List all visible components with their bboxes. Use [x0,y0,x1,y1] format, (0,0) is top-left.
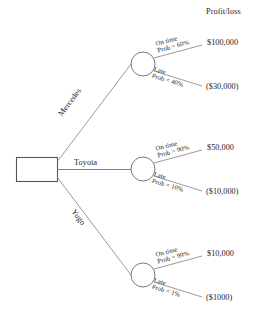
branch-line-mercedes [57,64,131,162]
profit-loss-header: Profit/loss [206,8,241,17]
alternative-label-toyota: Toyota [74,159,97,167]
chance-node-mercedes[interactable] [131,52,155,76]
branch-line-yugo [57,177,131,275]
payoff-mercedes-late: ($30,000) [206,83,239,92]
payoff-yugo-late: ($1000) [206,294,232,303]
decision-tree-diagram: Profit/loss Mercedes Toyota Yugo On time… [0,0,263,321]
chance-node-toyota[interactable] [131,157,155,181]
tree-graphics [0,0,263,321]
payoff-toyota-on-time: $50,000 [207,144,234,153]
payoff-mercedes-on-time: $100,000 [207,39,238,48]
chance-node-yugo[interactable] [131,263,155,287]
decision-node-box[interactable] [17,158,58,182]
payoff-toyota-late: ($10,000) [206,188,239,197]
payoff-yugo-on-time: $10,000 [207,250,234,259]
